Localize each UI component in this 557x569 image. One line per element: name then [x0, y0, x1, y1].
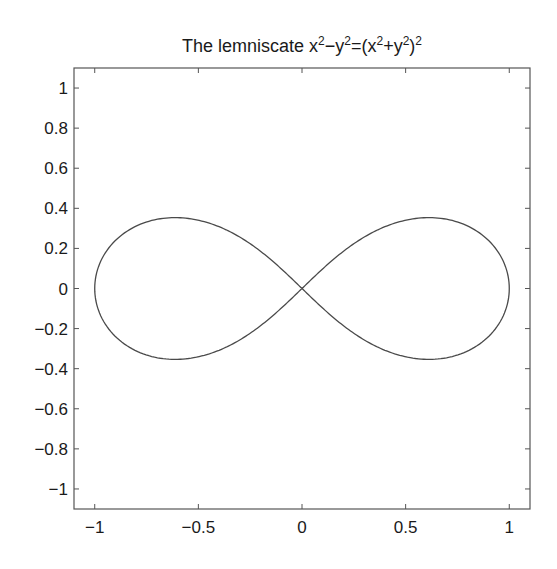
title-superscript: 2: [415, 34, 422, 48]
chart-title: The lemniscate x2−y2=(x2+y2)2: [182, 34, 422, 56]
x-tick-label: −1: [85, 518, 104, 537]
y-tick-label: 0: [59, 280, 68, 299]
x-tick-label: 0: [297, 518, 306, 537]
y-axis-ticks: 10.80.60.40.20−0.2−0.4−0.6−0.8−1: [34, 79, 530, 499]
curve-layer: [95, 218, 510, 360]
x-axis-ticks: −1−0.500.51: [85, 68, 514, 537]
lemniscate-curve: [95, 218, 510, 360]
y-tick-label: −0.6: [34, 400, 68, 419]
y-tick-label: −0.4: [34, 360, 68, 379]
x-tick-label: 0.5: [394, 518, 418, 537]
y-tick-label: 1: [59, 79, 68, 98]
y-tick-label: 0.6: [44, 159, 68, 178]
y-tick-label: −0.2: [34, 320, 68, 339]
x-tick-label: 1: [505, 518, 514, 537]
y-tick-label: 0.8: [44, 119, 68, 138]
title-segment: −y: [325, 36, 345, 56]
y-tick-label: −0.8: [34, 440, 68, 459]
y-tick-label: 0.2: [44, 239, 68, 258]
x-tick-label: −0.5: [182, 518, 216, 537]
title-segment: +y: [383, 36, 403, 56]
y-tick-label: −1: [49, 480, 68, 499]
chart: The lemniscate x2−y2=(x2+y2)2 −1−0.500.5…: [0, 0, 557, 569]
title-segment: The lemniscate x: [182, 36, 318, 56]
title-segment: =(x: [351, 36, 377, 56]
y-tick-label: 0.4: [44, 199, 68, 218]
